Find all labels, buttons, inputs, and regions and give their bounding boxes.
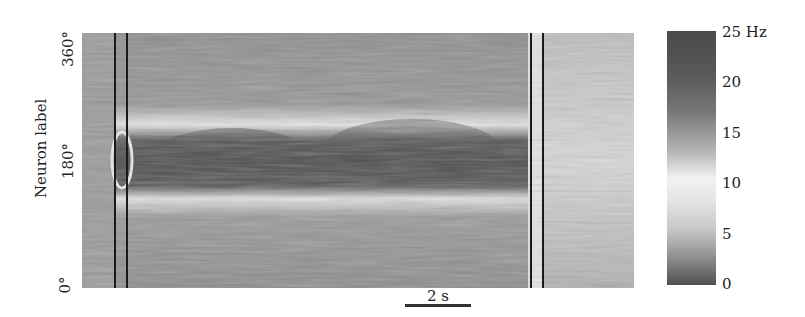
colorbar-tick-20: 20 — [722, 75, 741, 90]
colorbar-tick-15: 15 — [722, 126, 741, 141]
cue-onset-line-1 — [114, 33, 116, 288]
scale-bar-label: 2 s — [405, 287, 471, 305]
activity-heatmap — [82, 33, 634, 288]
colorbar — [667, 31, 716, 285]
delay-end-line-1 — [530, 33, 532, 288]
colorbar-tick-0: 0 — [722, 277, 732, 292]
time-scale-bar — [405, 304, 471, 307]
delay-end-line-2 — [542, 33, 544, 288]
colorbar-tick-10: 10 — [722, 176, 741, 191]
y-axis-label: Neuron label — [32, 108, 50, 198]
colorbar-tick-5: 5 — [722, 227, 732, 242]
y-tick-360: 360° — [59, 31, 77, 67]
colorbar-tick-25: 25 Hz — [722, 25, 767, 40]
cue-onset-line-2 — [126, 33, 128, 288]
y-tick-180: 180° — [59, 143, 77, 179]
y-tick-0: 0° — [56, 276, 74, 293]
